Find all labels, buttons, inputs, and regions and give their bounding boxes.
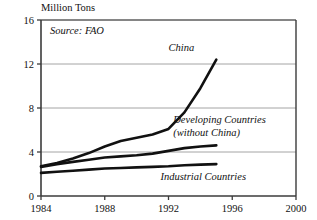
y-axis-label: Million Tons <box>41 2 95 13</box>
y-tick-label: 16 <box>24 15 35 26</box>
series-label-line2: (without China) <box>173 127 240 139</box>
y-tick-label: 0 <box>29 191 34 202</box>
y-tick-label: 12 <box>24 59 35 70</box>
chart-figure: 0481216 19841988199219962000 ChinaDevelo… <box>0 0 317 220</box>
x-tick-label: 1992 <box>158 203 179 214</box>
x-tick-label: 1996 <box>222 203 243 214</box>
y-tick-label: 4 <box>29 147 35 158</box>
source-note: Source: FAO <box>50 25 104 36</box>
y-tick-label: 8 <box>29 103 34 114</box>
chart-background <box>0 0 317 220</box>
line-chart: 0481216 19841988199219962000 ChinaDevelo… <box>0 0 317 220</box>
x-tick-label: 1984 <box>31 203 53 214</box>
x-tick-label: 1988 <box>94 203 115 214</box>
series-label: China <box>169 42 195 53</box>
series-label: Developing Countries <box>172 114 265 125</box>
series-label: Industrial Countries <box>160 171 246 182</box>
x-tick-label: 2000 <box>286 203 307 214</box>
